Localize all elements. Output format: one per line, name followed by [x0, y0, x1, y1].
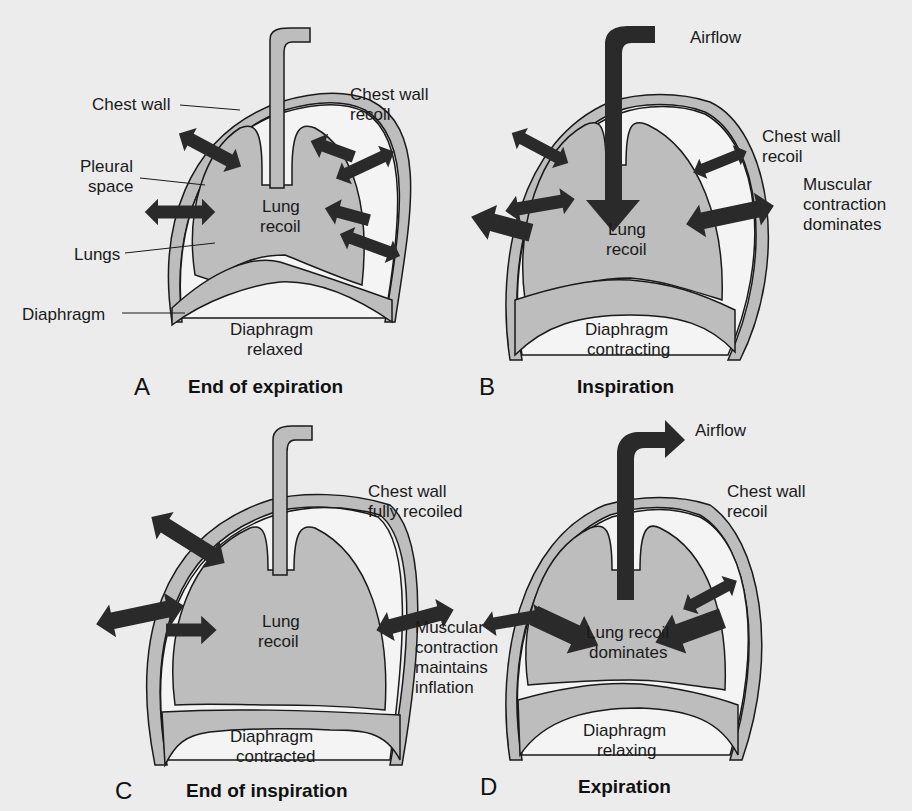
- label-diaphragm-state: Diaphragm: [230, 727, 313, 746]
- panel-caption: End of inspiration: [186, 780, 348, 801]
- label-diaphragm: Diaphragm: [22, 305, 105, 324]
- label-chest-wall-recoil-2: recoil: [762, 147, 803, 166]
- panel-b: Airflow Chest wall recoil Muscular contr…: [466, 26, 886, 400]
- label-muscular-2: contraction: [803, 195, 886, 214]
- label-pleural-space-2: space: [88, 177, 133, 196]
- panel-d: Airflow Chest wall recoil Lung recoil do…: [480, 420, 806, 800]
- label-diaphragm-state-2: relaxing: [597, 741, 657, 760]
- label-chest-wall-recoil: Chest wall: [762, 127, 840, 146]
- label-chest-wall-recoil-2: recoil: [350, 105, 391, 124]
- label-muscular-2: contraction: [415, 638, 498, 657]
- label-lung-recoil: Lung: [608, 220, 646, 239]
- panel-a: Chest wall Chest wall recoil Pleural spa…: [22, 28, 428, 400]
- label-diaphragm-state: Diaphragm: [585, 320, 668, 339]
- panel-letter: D: [480, 773, 497, 800]
- label-lung-recoil-2: dominates: [589, 643, 667, 662]
- label-lung-recoil-2: recoil: [606, 240, 647, 259]
- panel-letter: A: [134, 373, 150, 400]
- label-airflow: Airflow: [695, 421, 747, 440]
- label-muscular-4: inflation: [415, 678, 474, 697]
- label-chest-wall-recoil-2: recoil: [727, 502, 768, 521]
- label-diaphragm-state: Diaphragm: [583, 721, 666, 740]
- label-chest-wall-recoil: Chest wall: [727, 482, 805, 501]
- label-chest-wall-2: fully recoiled: [368, 502, 463, 521]
- label-diaphragm-state-2: contracting: [587, 340, 670, 359]
- panel-c: Chest wall fully recoiled Muscular contr…: [93, 426, 498, 804]
- label-lung-recoil: Lung recoil: [586, 623, 669, 642]
- respiration-diagram: Chest wall Chest wall recoil Pleural spa…: [0, 0, 912, 811]
- label-muscular: Muscular: [803, 175, 872, 194]
- label-muscular-3: maintains: [415, 658, 488, 677]
- label-muscular: Muscular: [415, 618, 484, 637]
- label-lung-recoil: Lung: [262, 197, 300, 216]
- label-muscular-3: dominates: [803, 215, 881, 234]
- label-lung-recoil: Lung: [262, 612, 300, 631]
- panel-letter: B: [479, 373, 495, 400]
- label-chest-wall: Chest wall: [92, 95, 170, 114]
- label-diaphragm-state-2: relaxed: [247, 340, 303, 359]
- label-lungs: Lungs: [74, 245, 120, 264]
- label-chest-wall: Chest wall: [368, 482, 446, 501]
- panel-letter: C: [115, 777, 132, 804]
- label-diaphragm-state: Diaphragm: [230, 320, 313, 339]
- label-airflow: Airflow: [690, 28, 742, 47]
- panel-caption: Inspiration: [577, 376, 674, 397]
- label-chest-wall-recoil: Chest wall: [350, 85, 428, 104]
- label-pleural-space: Pleural: [80, 157, 133, 176]
- label-diaphragm-state-2: contracted: [236, 747, 315, 766]
- label-lung-recoil-2: recoil: [258, 632, 299, 651]
- panel-caption: End of expiration: [188, 376, 343, 397]
- panel-caption: Expiration: [578, 776, 671, 797]
- label-lung-recoil-2: recoil: [260, 217, 301, 236]
